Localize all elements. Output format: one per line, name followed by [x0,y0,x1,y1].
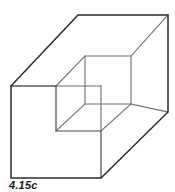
face-notch-back [85,56,131,104]
figure-container: 4.15c [0,0,175,192]
notched-block-drawing [0,0,175,192]
figure-caption-label: 4.15c [9,178,38,192]
